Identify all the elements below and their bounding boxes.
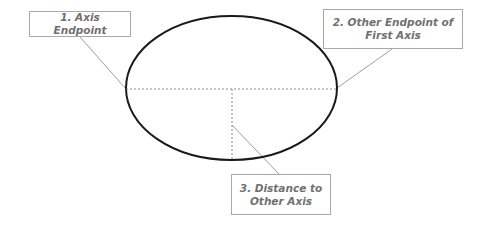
label-distance-other-axis-text: 3. Distance to Other Axis — [236, 182, 326, 208]
label-other-endpoint: 2. Other Endpoint of First Axis — [323, 9, 463, 49]
label-other-endpoint-text: 2. Other Endpoint of First Axis — [328, 16, 458, 42]
leader-line-3 — [232, 125, 279, 174]
label-distance-other-axis: 3. Distance to Other Axis — [231, 174, 331, 215]
leader-line-2 — [337, 49, 392, 88]
label-axis-endpoint: 1. Axis Endpoint — [29, 11, 131, 37]
label-axis-endpoint-text: 1. Axis Endpoint — [34, 11, 126, 37]
leader-line-1 — [80, 37, 126, 89]
